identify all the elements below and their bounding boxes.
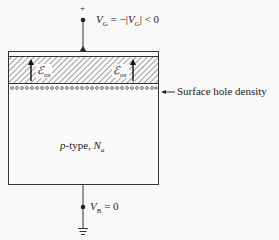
substrate-region bbox=[9, 84, 159, 185]
mos-capacitor-diagram: + VG = −|VG| < 0 ℰox ℰox Surface hole de… bbox=[0, 0, 279, 240]
oxide-field-label-left: ℰox bbox=[37, 64, 51, 79]
gate-contact-arrow bbox=[80, 46, 86, 51]
gate-voltage-label: VG = −|VG| < 0 bbox=[96, 13, 159, 28]
body-voltage-label: VB = 0 bbox=[90, 200, 119, 215]
gate-polarity-plus: + bbox=[80, 3, 85, 13]
metal-gate-layer bbox=[9, 52, 159, 57]
diagram-graphics bbox=[0, 0, 279, 240]
substrate-type-label: p-type, Na bbox=[60, 139, 104, 154]
oxide-field-label-right: ℰox bbox=[113, 64, 127, 79]
gate-terminal-dot bbox=[81, 18, 86, 23]
annotation-arrowhead bbox=[161, 90, 166, 94]
ground-icon bbox=[78, 229, 88, 235]
surface-hole-density-label: Surface hole density bbox=[177, 85, 267, 97]
body-terminal-dot bbox=[81, 205, 86, 210]
